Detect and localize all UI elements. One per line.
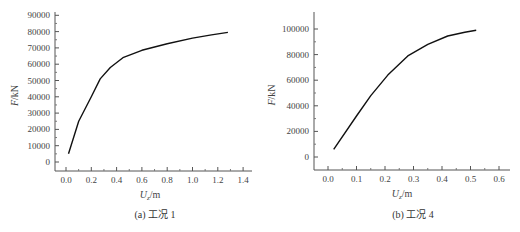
caption-a: (a) 工况 1 xyxy=(55,206,255,221)
y-tick-label: 80000 xyxy=(28,27,51,37)
y-tick-label: 0 xyxy=(305,152,310,162)
y-tick-label: 70000 xyxy=(28,43,51,53)
series-line xyxy=(69,32,228,153)
x-tick-label: 1.2 xyxy=(212,175,223,185)
x-tick-label: 0.4 xyxy=(111,175,123,185)
y-axis-label: F/kN xyxy=(266,84,277,106)
x-tick-label: 0.2 xyxy=(379,174,390,184)
x-tick-label: 0.0 xyxy=(60,175,72,185)
x-tick-label: 1.0 xyxy=(187,175,199,185)
x-tick-label: 0.6 xyxy=(136,175,148,185)
y-tick-label: 20000 xyxy=(287,126,310,136)
x-tick-label: 1.4 xyxy=(237,175,249,185)
y-tick-label: 30000 xyxy=(28,108,51,118)
x-tick-label: 0.0 xyxy=(322,174,334,184)
y-tick-label: 100000 xyxy=(282,24,310,34)
y-tick-label: 0 xyxy=(46,157,51,167)
x-tick-label: 0.8 xyxy=(162,175,174,185)
y-tick-label: 90000 xyxy=(28,10,51,20)
y-tick-label: 50000 xyxy=(28,76,51,86)
y-tick-label: 60000 xyxy=(28,59,51,69)
y-tick-label: 20000 xyxy=(28,124,51,134)
y-axis-label: F/kN xyxy=(9,85,20,107)
chart-b: 0200004000060000800001000000.00.10.20.30… xyxy=(260,0,520,200)
x-axis-label: Uz/m xyxy=(140,189,161,200)
axes: 0200004000060000800001000000.00.10.20.30… xyxy=(266,12,510,200)
y-tick-label: 60000 xyxy=(287,75,310,85)
caption-b: (b) 工况 4 xyxy=(313,206,513,221)
y-tick-label: 80000 xyxy=(287,50,310,60)
x-tick-label: 0.5 xyxy=(465,174,477,184)
y-tick-label: 40000 xyxy=(28,92,51,102)
chart-a: 0100002000030000400005000060000700008000… xyxy=(0,0,260,200)
y-tick-label: 40000 xyxy=(287,101,310,111)
axes: 0100002000030000400005000060000700008000… xyxy=(9,10,252,200)
x-tick-label: 0.4 xyxy=(436,174,448,184)
series-line xyxy=(334,30,477,149)
x-tick-label: 0.1 xyxy=(351,174,362,184)
x-tick-label: 0.6 xyxy=(493,174,505,184)
x-axis-label: Uz/m xyxy=(392,188,413,200)
x-tick-label: 0.3 xyxy=(408,174,420,184)
y-tick-label: 10000 xyxy=(28,141,51,151)
x-tick-label: 0.2 xyxy=(86,175,97,185)
